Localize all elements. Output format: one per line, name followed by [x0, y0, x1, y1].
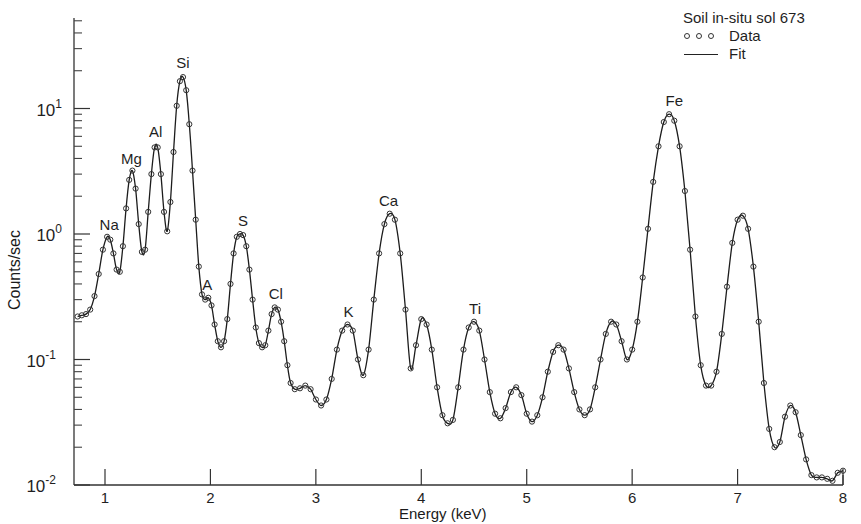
x-tick-label: 6	[628, 489, 636, 506]
peak-label: Ti	[469, 300, 481, 317]
y-tick-label: 100	[36, 222, 62, 245]
legend-label-data: Data	[729, 27, 761, 45]
y-axis-label-box: Counts/sec	[2, 200, 28, 340]
x-tick-label: 2	[206, 489, 214, 506]
x-tick-label: 4	[417, 489, 425, 506]
spectrum-chart: 1234567810-210-1100101 NaMgAlSiASClKCaTi…	[0, 0, 861, 524]
peak-label: Al	[149, 123, 162, 140]
y-axis-label: Counts/sec	[6, 230, 24, 310]
y-tick-label: 101	[36, 97, 62, 120]
x-tick-label: 5	[523, 489, 531, 506]
peak-label: Cl	[269, 285, 283, 302]
open-circle-marker-icon	[683, 29, 721, 43]
peak-label: Fe	[666, 92, 684, 109]
solid-line-icon	[683, 47, 721, 61]
legend: Soil in-situ sol 673 Data Fit	[683, 9, 805, 63]
peak-label: Ca	[379, 192, 399, 209]
peak-label: Mg	[121, 150, 142, 167]
legend-entry-data: Data	[683, 27, 805, 45]
legend-title: Soil in-situ sol 673	[683, 9, 805, 27]
legend-entry-fit: Fit	[683, 45, 805, 63]
peak-label: Na	[100, 216, 120, 233]
peak-label: Si	[176, 54, 189, 71]
x-axis-label: Energy (keV)	[399, 505, 487, 522]
fit-curve	[78, 76, 843, 481]
fit-line	[78, 76, 843, 481]
peak-label: K	[344, 303, 354, 320]
y-tick-label: 10-1	[26, 348, 56, 371]
peak-label: A	[202, 276, 212, 293]
legend-label-fit: Fit	[729, 45, 746, 63]
peak-label: S	[238, 212, 248, 229]
x-tick-label: 3	[312, 489, 320, 506]
x-tick-label: 7	[733, 489, 741, 506]
x-tick-label: 1	[101, 489, 109, 506]
x-tick-label: 8	[839, 489, 847, 506]
axes: 1234567810-210-1100101	[26, 18, 847, 506]
y-tick-label: 10-2	[26, 473, 56, 496]
